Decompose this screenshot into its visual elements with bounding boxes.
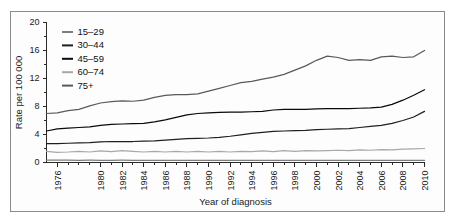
x-tick-label: 1984 — [139, 171, 149, 191]
x-tick-label: 2006 — [377, 171, 387, 191]
y-tick-label: 12 — [29, 73, 39, 83]
x-tick-label: 1986 — [161, 171, 171, 191]
legend-label-15-29: 15–29 — [78, 26, 104, 37]
x-axis-tick-labels: 1976198019821984198619881990199219941996… — [53, 171, 430, 191]
legend-label-45-59: 45–59 — [78, 53, 104, 64]
x-tick-label: 1990 — [204, 171, 214, 191]
x-tick-label: 1980 — [96, 171, 106, 191]
x-tick-label: 2004 — [355, 171, 365, 191]
legend-label-60-74: 60–74 — [78, 66, 104, 77]
series-line-60-74 — [47, 149, 425, 153]
x-tick-label: 1988 — [182, 171, 192, 191]
x-tick-label: 1992 — [226, 171, 236, 191]
x-tick-label: 2010 — [420, 171, 430, 191]
x-tick-label: 2000 — [312, 171, 322, 191]
legend-label-30-44: 30–44 — [78, 39, 104, 50]
x-tick-label: 2008 — [398, 171, 408, 191]
x-tick-label: 1994 — [247, 171, 257, 191]
x-axis-ticks — [57, 163, 424, 167]
x-tick-label: 1982 — [118, 171, 128, 191]
line-chart: 048121620 197619801982198419861988199019… — [0, 0, 457, 224]
x-tick-label: 2002 — [334, 171, 344, 191]
y-tick-label: 16 — [29, 45, 39, 55]
y-tick-label: 8 — [34, 101, 39, 111]
x-tick-label: 1998 — [290, 171, 300, 191]
x-axis-title: Year of diagnosis — [199, 196, 272, 207]
figure-container: 048121620 197619801982198419861988199019… — [0, 0, 457, 224]
legend-label-75plus: 75+ — [78, 80, 95, 91]
series-line-30-44 — [47, 111, 425, 143]
y-axis-ticks — [43, 23, 47, 163]
x-tick-label: 1976 — [53, 171, 63, 191]
chart-legend: 15–2930–4445–5960–7475+ — [62, 26, 104, 91]
y-axis-tick-labels: 048121620 — [29, 17, 39, 167]
series-line-45-59 — [47, 90, 425, 131]
y-tick-label: 0 — [34, 157, 39, 167]
y-tick-label: 4 — [34, 129, 39, 139]
x-tick-label: 1996 — [269, 171, 279, 191]
y-axis-title: Rate per 100 000 — [13, 56, 24, 129]
y-tick-label: 20 — [29, 17, 39, 27]
